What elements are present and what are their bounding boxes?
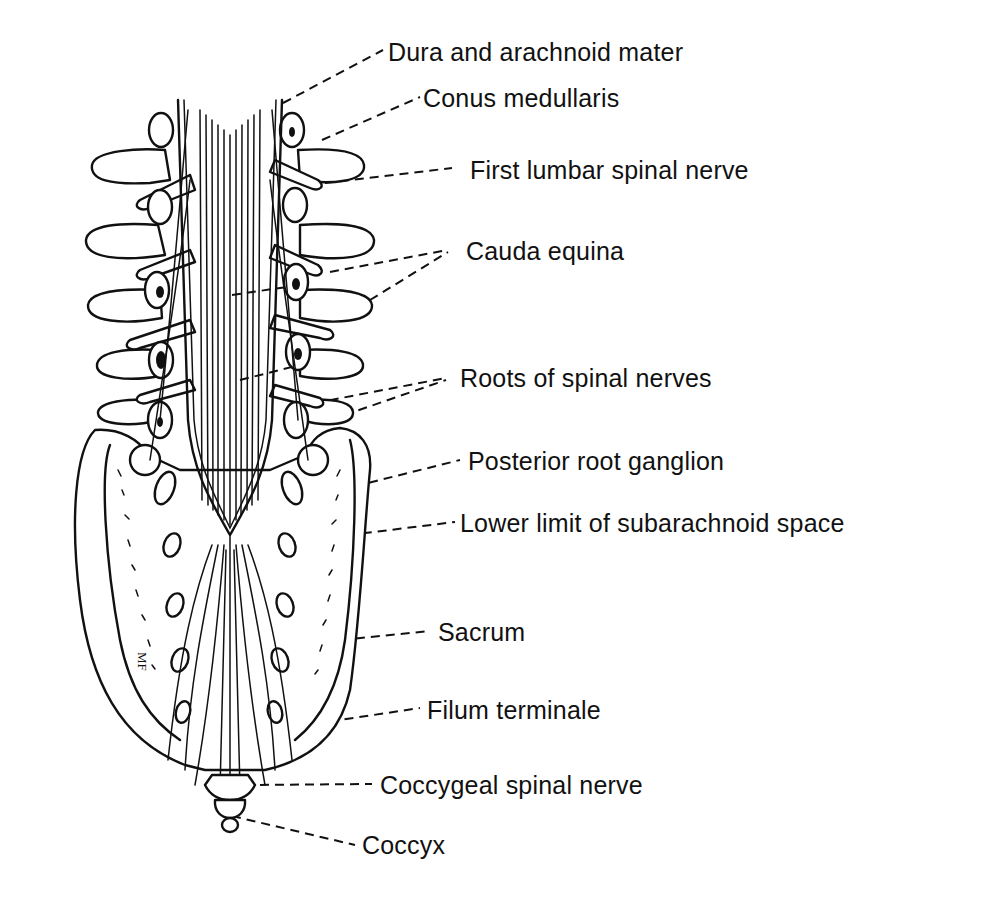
artist-initials: MF bbox=[134, 652, 150, 671]
leader-coccyx bbox=[232, 816, 355, 845]
coccyx bbox=[205, 775, 255, 832]
leader-coccygeal bbox=[245, 784, 372, 785]
label-sacrum: Sacrum bbox=[438, 620, 525, 645]
label-posterior-root-ganglion: Posterior root ganglion bbox=[468, 449, 724, 474]
label-roots-of-spinal-nerves: Roots of spinal nerves bbox=[460, 366, 712, 391]
leader-roots-1 bbox=[315, 378, 446, 403]
label-filum-terminale: Filum terminale bbox=[427, 698, 601, 723]
label-dura-and-arachnoid-mater: Dura and arachnoid mater bbox=[388, 40, 683, 65]
label-coccyx: Coccyx bbox=[362, 833, 445, 858]
spinal-anatomy-figure: MF Dura and arachnoid mater Conus medull… bbox=[0, 0, 987, 897]
leader-dura bbox=[283, 50, 383, 103]
label-cauda-equina: Cauda equina bbox=[466, 239, 624, 264]
lumbar-vertebrae-left bbox=[86, 113, 195, 438]
label-conus-medullaris: Conus medullaris bbox=[423, 86, 619, 111]
leader-cauda-2 bbox=[370, 252, 448, 300]
sacrum bbox=[75, 428, 370, 770]
leader-conus bbox=[322, 97, 420, 140]
label-lower-limit-subarachnoid-space: Lower limit of subarachnoid space bbox=[460, 511, 845, 536]
label-coccygeal-spinal-nerve: Coccygeal spinal nerve bbox=[380, 773, 643, 798]
label-first-lumbar-spinal-nerve: First lumbar spinal nerve bbox=[470, 158, 749, 183]
